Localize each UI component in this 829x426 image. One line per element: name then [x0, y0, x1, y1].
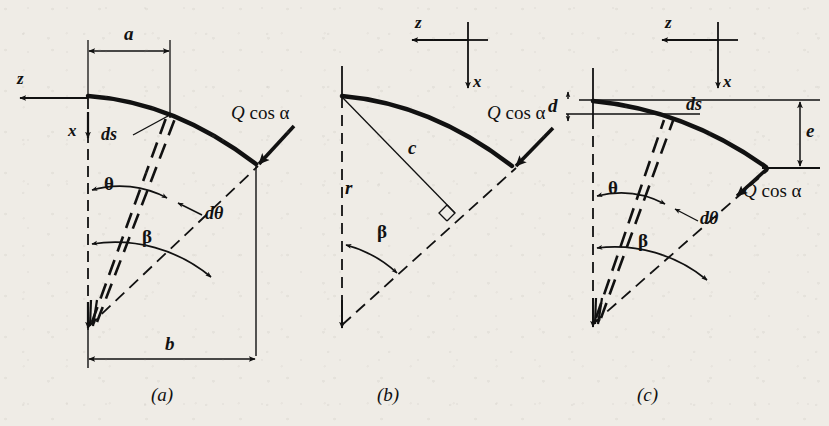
dtheta-leader-c: [675, 209, 698, 221]
ds-apex-arrow-1-a: [90, 300, 91, 326]
angle-dtheta-label-c: dθ: [700, 209, 718, 227]
panel-caption-c: (c): [637, 385, 658, 404]
panel-caption-a: (a): [151, 385, 173, 404]
dim-b-label: b: [165, 334, 175, 353]
dim-e-label-c: e: [806, 121, 814, 140]
axis-z-label-a: z: [17, 70, 24, 87]
dtheta-leader-a: [178, 203, 202, 215]
load-label-c: Q cos α: [743, 181, 802, 200]
chord-c-label-b: c: [408, 138, 416, 157]
load-q-c: Q: [743, 180, 757, 201]
angle-dtheta-label-a: dθ: [205, 204, 223, 222]
panel-a-linework: [20, 40, 294, 368]
load-cos-a: cos: [249, 102, 274, 123]
load-cos-b: cos: [505, 102, 530, 123]
ds-radial-2-c: [601, 118, 674, 318]
ds-radial-2-a: [97, 116, 176, 322]
angle-beta-arc-b: [346, 245, 397, 273]
load-alpha-b: α: [536, 102, 546, 123]
load-label-b: Q cos α: [487, 103, 546, 122]
load-q-a: Q: [231, 102, 245, 123]
angle-beta-label-a: β: [142, 227, 152, 246]
load-cos-c: cos: [761, 180, 786, 201]
angle-beta-label-b: β: [377, 222, 387, 241]
panel-caption-b: (b): [377, 385, 399, 404]
chord-c-line-b: [342, 97, 455, 213]
panel-c-linework: [566, 22, 820, 327]
axis-x-label-c: x: [723, 73, 732, 90]
ds-label-c: ds: [686, 95, 702, 113]
angle-theta-label-a: θ: [104, 174, 114, 193]
angle-beta-label-c: β: [638, 231, 648, 250]
curved-beam-c: [593, 101, 766, 167]
right-angle-mark-b: [439, 205, 447, 221]
dim-d-label-c: d: [548, 96, 558, 115]
radius-line-beta-b: [342, 168, 516, 325]
axis-x-label-b: x: [473, 73, 482, 90]
axis-z-label-c: z: [665, 14, 672, 31]
axis-z-label-b: z: [415, 14, 422, 31]
axis-x-label-a: x: [68, 122, 77, 139]
panel-b-linework: [342, 22, 553, 328]
load-alpha-a: α: [280, 102, 290, 123]
load-label-a: Q cos α: [231, 103, 290, 122]
load-q-b: Q: [487, 102, 501, 123]
radius-r-label-b: r: [345, 178, 352, 197]
ds-apex-arrow-1-c: [595, 298, 596, 324]
load-arrow-a: [259, 126, 294, 164]
right-angle-mark2-b: [447, 205, 455, 221]
ds-radial-1-a: [92, 118, 166, 322]
ds-label-a: ds: [101, 125, 117, 143]
ds-radial-1-c: [596, 120, 664, 318]
dim-a-label: a: [124, 24, 134, 43]
angle-theta-label-c: θ: [608, 178, 618, 197]
load-alpha-c: α: [792, 180, 802, 201]
figure-container: z x a b ds θ dθ β Q cos α (a) z x r c β …: [0, 0, 829, 426]
load-arrow-b: [516, 128, 553, 166]
